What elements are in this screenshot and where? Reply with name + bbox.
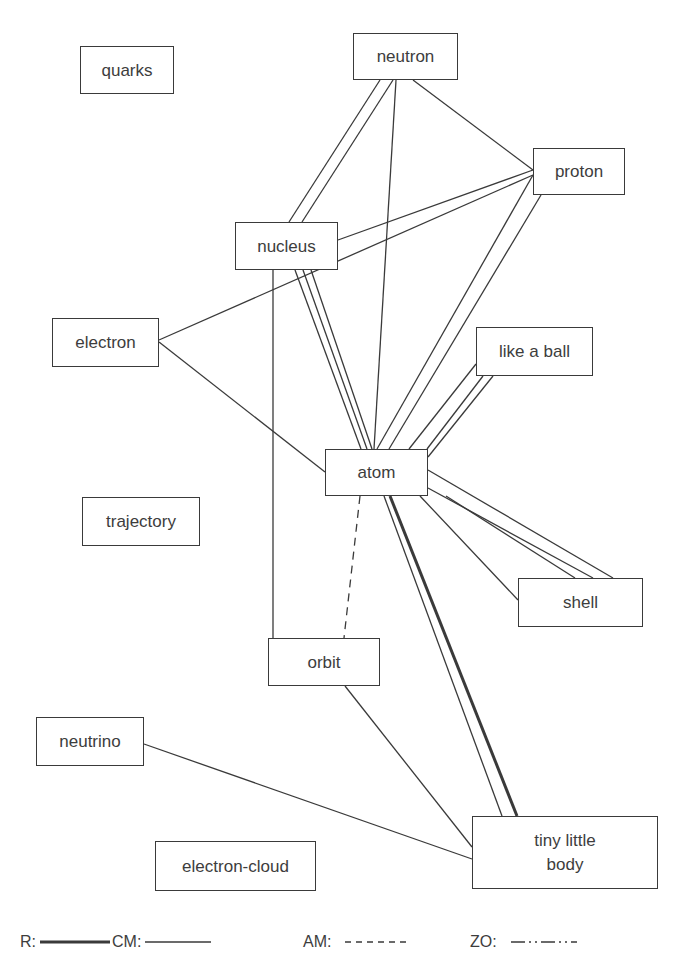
node-label: tiny little body — [520, 829, 610, 877]
edge-line-cm — [345, 686, 472, 847]
node-label: nucleus — [257, 236, 316, 257]
node-neutrino[interactable]: neutrino — [36, 717, 144, 766]
legend-line-cm-icon — [145, 937, 211, 947]
legend-line-r-icon — [40, 937, 110, 947]
edge-line-cm — [409, 364, 476, 449]
legend-label: AM: — [303, 933, 331, 951]
edge-line-cm — [302, 80, 393, 222]
node-label: proton — [555, 161, 603, 182]
edge-neutron-atom — [374, 80, 396, 449]
edge-line-cm — [159, 342, 325, 472]
node-label: shell — [563, 592, 598, 613]
node-proton[interactable]: proton — [533, 148, 625, 195]
node-label: quarks — [101, 60, 152, 81]
edge-line-cm — [384, 496, 502, 816]
edge-line-cm — [374, 80, 396, 449]
legend-line-zo-icon — [511, 937, 577, 947]
edge-line-cm — [338, 170, 533, 240]
edge-atom-tiny-little-body — [384, 496, 502, 816]
edge-line-cm — [427, 376, 483, 449]
edge-line-cm — [428, 488, 593, 578]
node-label: electron-cloud — [182, 856, 289, 877]
edge-line-cm — [303, 270, 367, 449]
legend-item-am: AM: — [303, 930, 411, 954]
legend: R:CM:AM:ZO: — [20, 930, 680, 954]
node-like-a-ball[interactable]: like a ball — [476, 327, 593, 376]
edge-line-cm — [289, 80, 380, 222]
node-label: electron — [75, 332, 135, 353]
node-neutron[interactable]: neutron — [353, 33, 458, 80]
node-quarks[interactable]: quarks — [80, 46, 174, 94]
node-label: neutron — [377, 46, 435, 67]
edge-line-cm — [159, 175, 533, 340]
node-label: neutrino — [59, 731, 120, 752]
edge-line-cm — [295, 270, 361, 449]
node-label: orbit — [307, 652, 340, 673]
edge-orbit-tiny-little-body — [345, 686, 472, 847]
edge-line-cm — [377, 175, 533, 449]
edge-line-cm — [420, 496, 518, 600]
edge-line-cm — [311, 270, 372, 449]
edge-neutron-proton — [413, 80, 533, 170]
edge-line-cm — [446, 496, 575, 578]
edge-neutron-nucleus — [289, 80, 393, 222]
edge-line-cm — [428, 470, 613, 578]
node-electron[interactable]: electron — [52, 318, 159, 367]
legend-item-r: R: — [20, 930, 110, 954]
edge-atom-orbit — [344, 496, 360, 638]
legend-label: R: — [20, 933, 36, 951]
legend-item-zo: ZO: — [470, 930, 577, 954]
node-electron-cloud[interactable]: electron-cloud — [155, 841, 316, 891]
node-label: trajectory — [106, 511, 176, 532]
edge-nucleus-atom — [295, 270, 372, 449]
edge-line-cm — [428, 376, 493, 457]
edge-electron-proton — [159, 175, 533, 340]
node-tiny-little-body[interactable]: tiny little body — [472, 816, 658, 889]
edge-like-a-ball-atom — [409, 364, 493, 457]
edge-line-cm — [413, 80, 533, 170]
node-label: like a ball — [499, 341, 570, 362]
legend-line-am-icon — [345, 937, 411, 947]
edge-line-am — [344, 496, 360, 638]
node-shell[interactable]: shell — [518, 578, 643, 627]
node-orbit[interactable]: orbit — [268, 638, 380, 686]
legend-label: ZO: — [470, 933, 497, 951]
node-atom[interactable]: atom — [325, 449, 428, 496]
edge-nucleus-proton — [338, 170, 533, 240]
legend-item-cm: CM: — [112, 930, 211, 954]
edge-electron-atom — [159, 342, 325, 472]
node-nucleus[interactable]: nucleus — [235, 222, 338, 270]
legend-label: CM: — [112, 933, 141, 951]
node-label: atom — [358, 462, 396, 483]
node-trajectory[interactable]: trajectory — [82, 497, 200, 546]
